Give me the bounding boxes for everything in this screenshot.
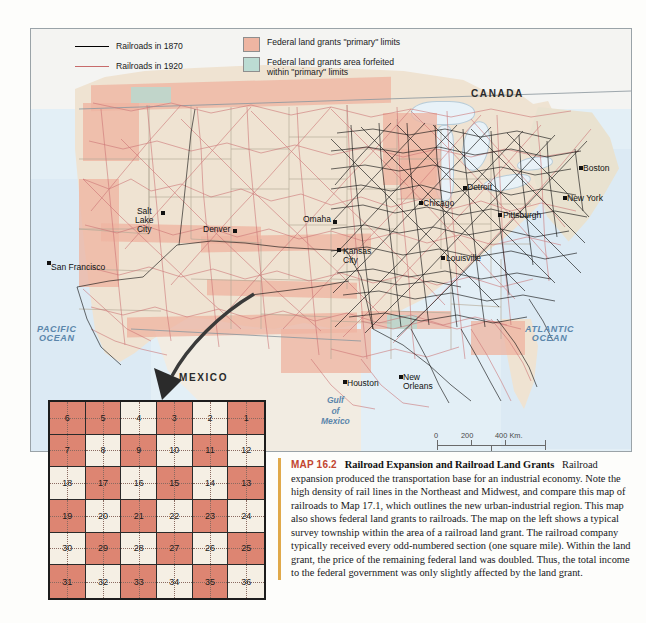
township-section: 29 xyxy=(86,533,122,566)
caption-map-number: MAP 16.2 xyxy=(291,459,337,470)
legend-swatch-primary-limits-icon xyxy=(243,37,260,52)
city-dot-san-francisco xyxy=(47,261,51,265)
township-section: 18 xyxy=(50,467,86,500)
city-dot-pittsburgh xyxy=(498,213,502,217)
city-dot-boston xyxy=(579,166,583,170)
scale-tick-km-400 xyxy=(505,440,506,446)
township-section: 22 xyxy=(157,500,193,533)
legend-label-1870: Railroads in 1870 xyxy=(116,41,183,51)
city-dot-kansas-city xyxy=(337,248,341,252)
township-section: 31 xyxy=(50,565,86,598)
scale-tick-end xyxy=(545,440,546,450)
township-section: 34 xyxy=(157,565,193,598)
city-dot-louisville xyxy=(441,256,445,260)
township-section: 24 xyxy=(228,500,264,533)
township-section: 14 xyxy=(193,467,229,500)
township-section: 11 xyxy=(193,435,229,468)
city-dot-new-orleans xyxy=(399,375,403,379)
township-section: 10 xyxy=(157,435,193,468)
township-section: 15 xyxy=(157,467,193,500)
township-section: 28 xyxy=(121,533,157,566)
township-section: 8 xyxy=(86,435,122,468)
township-section: 13 xyxy=(228,467,264,500)
township-section: 25 xyxy=(228,533,264,566)
city-dot-denver xyxy=(233,229,237,233)
scale-tick-0 xyxy=(437,440,438,450)
legend-swatch-forfeited-icon xyxy=(243,57,260,72)
legend-line-1920-icon xyxy=(75,66,109,67)
township-section: 5 xyxy=(86,402,122,435)
legend-item-railroads-1920: Railroads in 1920 xyxy=(75,61,183,71)
scale-km-400: 400 Km. xyxy=(495,431,523,440)
city-dot-salt-lake-city xyxy=(161,211,165,215)
township-section: 27 xyxy=(157,533,193,566)
city-dot-new-york xyxy=(563,196,567,200)
caption-text: MAP 16.2 Railroad Expansion and Railroad… xyxy=(291,458,634,580)
township-section: 32 xyxy=(86,565,122,598)
city-dot-omaha xyxy=(333,220,337,224)
township-section: 19 xyxy=(50,500,86,533)
scale-tick-mi-200 xyxy=(491,445,492,451)
township-section: 7 xyxy=(50,435,86,468)
scale-tick-km-200 xyxy=(471,440,472,446)
township-section: 26 xyxy=(193,533,229,566)
city-dot-chicago xyxy=(419,201,423,205)
township-section: 30 xyxy=(50,533,86,566)
map-panel: Railroads in 1870 Railroads in 1920 Fede… xyxy=(30,28,632,452)
legend-label-primary-limits: Federal land grants "primary" limits xyxy=(267,37,400,47)
scale-bar: 0 200 400 Km. 0 200 400 Mi. xyxy=(433,427,551,452)
city-dot-houston xyxy=(343,380,347,384)
legend-item-forfeited: Federal land grants area forfeitedwithin… xyxy=(243,57,435,78)
township-section: 33 xyxy=(121,565,157,598)
township-section: 9 xyxy=(121,435,157,468)
scale-km-0: 0 xyxy=(434,431,438,440)
city-dot-detroit xyxy=(463,186,467,190)
legend-item-primary-limits: Federal land grants "primary" limits xyxy=(243,37,400,52)
township-section: 23 xyxy=(193,500,229,533)
township-section: 21 xyxy=(121,500,157,533)
railroad-network xyxy=(31,29,631,451)
township-section: 6 xyxy=(50,402,86,435)
township-section: 2 xyxy=(193,402,229,435)
caption-body: Railroad expansion produced the transpor… xyxy=(291,459,631,578)
figure-caption: MAP 16.2 Railroad Expansion and Railroad… xyxy=(278,458,634,580)
township-section: 20 xyxy=(86,500,122,533)
township-survey-grid: 6 5 4 3 2 1 7 8 9 10 11 12 18 17 16 15 1… xyxy=(48,400,266,600)
legend-label-forfeited: Federal land grants area forfeitedwithin… xyxy=(267,57,435,78)
township-section: 3 xyxy=(157,402,193,435)
township-section: 35 xyxy=(193,565,229,598)
callout-arrow xyxy=(148,288,268,408)
township-section: 4 xyxy=(121,402,157,435)
township-section: 17 xyxy=(86,467,122,500)
map-legend: Railroads in 1870 Railroads in 1920 Fede… xyxy=(75,37,423,85)
legend-line-1870-icon xyxy=(75,46,109,47)
scale-km-200: 200 xyxy=(461,431,473,440)
caption-title: Railroad Expansion and Railroad Land Gra… xyxy=(345,459,555,470)
figure-root: Railroads in 1870 Railroads in 1920 Fede… xyxy=(0,0,646,623)
legend-label-1920: Railroads in 1920 xyxy=(116,61,183,71)
legend-item-railroads-1870: Railroads in 1870 xyxy=(75,41,183,51)
township-section: 1 xyxy=(228,402,264,435)
township-section: 36 xyxy=(228,565,264,598)
township-section: 16 xyxy=(121,467,157,500)
township-section: 12 xyxy=(228,435,264,468)
